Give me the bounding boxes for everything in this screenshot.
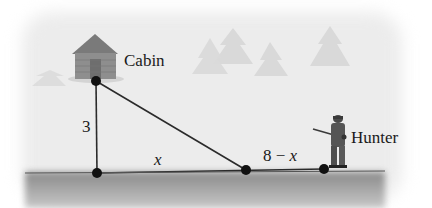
left-base-label: x [154,151,162,168]
tree-icon [32,70,66,86]
tree-icon [213,28,253,64]
hunter-icon [313,115,347,168]
cabin-point [91,76,101,86]
diagram-graphics [0,0,432,208]
cabin-label: Cabin [124,52,165,69]
cabin-icon [68,34,124,83]
mid-point [241,165,251,175]
vertical-side-label: 3 [82,118,91,135]
tree-icon [254,42,288,76]
right-base-variable: x [290,146,298,165]
tree-icon [310,26,350,66]
hunter-label: Hunter [351,129,398,146]
hypotenuse [96,81,246,170]
right-base-label: 8 − x [263,147,297,164]
hunter-point [319,164,329,174]
vertical-side [96,81,97,173]
cabin-hunter-diagram: Cabin Hunter 3 x 8 − x [0,0,432,208]
corner-point [92,168,102,178]
right-base-number: 8 − [263,146,290,165]
